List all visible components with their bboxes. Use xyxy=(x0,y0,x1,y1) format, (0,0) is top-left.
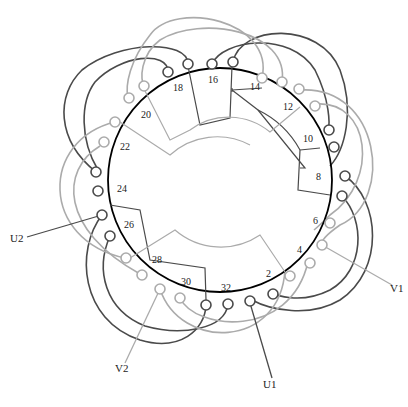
slot-label: 16 xyxy=(208,74,218,85)
slot-label: 12 xyxy=(283,101,293,112)
slot-label: 22 xyxy=(120,141,130,152)
terminal-label-v2: V2 xyxy=(115,362,128,374)
slot-label: 10 xyxy=(303,133,313,144)
slot-label: 4 xyxy=(297,244,302,255)
slot-label: 26 xyxy=(124,219,134,230)
winding-diagram-svg: 2 4 6 8 10 12 14 16 18 20 22 24 26 28 30… xyxy=(0,0,408,407)
slot-label: 18 xyxy=(173,82,183,93)
slot-label: 24 xyxy=(117,183,127,194)
slot-label: 32 xyxy=(221,282,231,293)
u-inner-links xyxy=(110,66,330,300)
terminal-label-v1: V1 xyxy=(390,282,403,294)
slot-labels: 2 4 6 8 10 12 14 16 18 20 22 24 26 28 30… xyxy=(117,74,321,293)
u-phase-coils xyxy=(64,33,373,343)
lead-lines xyxy=(27,215,272,378)
slot-label: 2 xyxy=(266,268,271,279)
slot-label: 28 xyxy=(152,254,162,265)
winding-diagram: 2 4 6 8 10 12 14 16 18 20 22 24 26 28 30… xyxy=(0,0,408,407)
slot-label: 14 xyxy=(250,81,260,92)
slot-label: 20 xyxy=(141,109,151,120)
slot-label: 8 xyxy=(316,171,321,182)
terminal-label-u1: U1 xyxy=(263,378,276,390)
terminal-label-u2: U2 xyxy=(10,232,23,244)
slot-label: 30 xyxy=(181,276,191,287)
terminal-labels: U1 U2 V1 V2 xyxy=(10,232,403,390)
slot-label: 6 xyxy=(313,215,318,226)
